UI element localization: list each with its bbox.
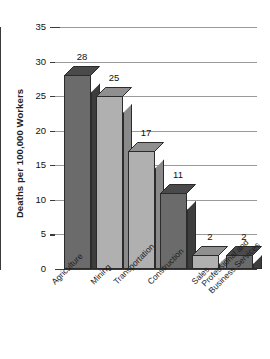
y-tick-label-20: 20: [20, 126, 46, 136]
y-tick-10: [50, 200, 55, 201]
y-tick-25: [50, 96, 55, 97]
y-tick-label-35: 35: [20, 22, 46, 32]
bar-front-face-mining: [96, 96, 123, 269]
y-tick-20: [50, 131, 55, 132]
bar-top-face-construction: [160, 184, 187, 193]
gridline-35: [55, 27, 257, 28]
y-tick-label-10: 10: [20, 195, 46, 205]
bar-value-agriculture: 28: [64, 52, 100, 62]
bar-agriculture[interactable]: [64, 75, 91, 269]
y-tick-35: [50, 27, 55, 28]
bar-value-mining: 25: [96, 73, 132, 83]
y-axis-cap-top: [55, 27, 60, 28]
bar-value-construction: 11: [160, 170, 196, 180]
y-tick-label-25: 25: [20, 91, 46, 101]
y-tick-label-0: 0: [20, 264, 46, 274]
bar-top-face-sales: [192, 246, 219, 255]
y-tick-15: [50, 165, 55, 166]
bar-value-transportation: 17: [128, 128, 164, 138]
bar-value-sales: 2: [192, 232, 228, 242]
y-axis-line: [0, 27, 1, 270]
y-tick-label-5: 5: [20, 229, 46, 239]
y-tick-label-30: 30: [20, 57, 46, 67]
bar-top-face-transportation: [128, 142, 155, 151]
bar-chart: Deaths per 100,000 Workers 35 30 25 20 1…: [0, 0, 270, 359]
bar-front-face-agriculture: [64, 75, 91, 269]
y-tick-label-15: 15: [20, 160, 46, 170]
bar-top-face-agriculture: [64, 66, 91, 75]
y-tick-30: [50, 62, 55, 63]
bar-side-face-professional-and-business-services: [253, 255, 262, 269]
y-tick-5: [50, 234, 55, 235]
bar-mining[interactable]: [96, 96, 123, 269]
bar-top-face-mining: [96, 87, 123, 96]
